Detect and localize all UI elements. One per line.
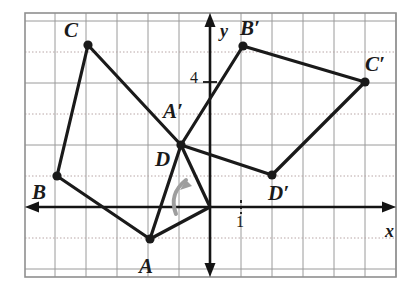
y-axis-arrow-up	[205, 13, 216, 27]
vertex-label-c: C	[64, 20, 78, 41]
image-quadrilateral-a-b-c-d-prime	[181, 46, 365, 175]
vertex-dot	[176, 140, 185, 149]
vertex-dot	[145, 234, 154, 243]
y-tick-4-label: 4	[190, 70, 198, 86]
y-axis-arrow-down	[205, 263, 216, 277]
vertex-label-b-prime: B′	[240, 18, 260, 39]
vertex-dot	[52, 171, 61, 180]
y-axis-label: y	[220, 22, 228, 40]
vertex-dot	[83, 40, 92, 49]
rotation-arrow-group	[174, 180, 192, 214]
vertex-dot	[360, 77, 369, 86]
x-tick-1-label: 1	[236, 214, 244, 230]
coordinate-plane-figure	[0, 0, 415, 294]
x-axis-arrow-right	[382, 202, 396, 213]
preimage-quadrilateral-abcd	[57, 45, 181, 239]
vertex-dot	[267, 170, 276, 179]
vertex-label-d-prime: D′	[268, 183, 289, 204]
vertex-label-b: B	[32, 182, 46, 203]
diagram-canvas: ABCDA′B′C′D′xy41	[0, 0, 415, 294]
vertex-label-a: A	[139, 256, 153, 277]
vertex-label-d: D	[155, 149, 170, 170]
vertex-label-a-prime: A′	[163, 101, 183, 122]
vertex-dot	[238, 41, 247, 50]
x-axis-label: x	[385, 222, 394, 240]
vertex-label-c-prime: C′	[365, 54, 385, 75]
